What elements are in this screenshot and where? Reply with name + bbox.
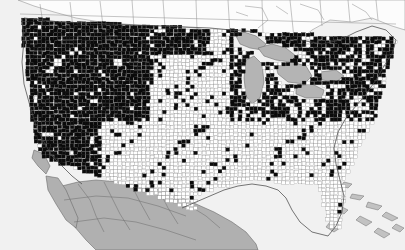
county — [182, 173, 186, 176]
county — [354, 133, 358, 136]
county — [134, 84, 138, 87]
county — [242, 110, 246, 113]
county — [94, 85, 98, 88]
county — [242, 170, 246, 173]
county — [326, 107, 330, 110]
county — [274, 77, 278, 80]
county — [262, 99, 266, 102]
county — [126, 184, 130, 187]
county — [130, 174, 134, 177]
county — [190, 173, 194, 176]
county — [374, 47, 378, 50]
county — [182, 29, 186, 32]
county — [166, 85, 170, 88]
county — [142, 29, 146, 32]
county — [106, 70, 110, 73]
county — [266, 125, 270, 128]
county — [62, 44, 66, 47]
county — [298, 166, 302, 169]
county — [110, 55, 114, 58]
county — [186, 166, 190, 169]
county — [322, 51, 326, 54]
county — [66, 140, 70, 143]
county — [70, 29, 74, 32]
county — [154, 107, 158, 110]
county — [346, 95, 350, 98]
county — [366, 51, 370, 54]
county — [270, 77, 274, 80]
county — [258, 177, 262, 180]
county — [206, 59, 210, 62]
county — [186, 114, 190, 117]
county — [386, 66, 390, 69]
county — [318, 55, 322, 58]
county — [346, 129, 350, 132]
county — [106, 66, 110, 69]
county — [246, 151, 250, 154]
county — [286, 118, 290, 121]
county — [322, 37, 326, 40]
county — [154, 166, 158, 169]
county — [170, 184, 174, 187]
county — [162, 158, 166, 161]
county — [54, 129, 58, 132]
county — [90, 58, 94, 61]
county — [210, 81, 214, 84]
county — [42, 148, 46, 151]
county — [326, 111, 330, 114]
county — [306, 107, 310, 110]
county — [294, 62, 298, 65]
county — [258, 166, 262, 169]
county — [378, 77, 382, 80]
county — [210, 62, 214, 65]
county — [126, 163, 130, 166]
county — [117, 52, 121, 55]
county — [26, 70, 30, 73]
county — [86, 88, 90, 91]
county — [62, 144, 66, 147]
county — [242, 67, 246, 70]
county — [290, 43, 294, 46]
county — [178, 185, 182, 188]
county — [62, 84, 66, 87]
county — [274, 143, 278, 146]
county — [238, 173, 242, 176]
county — [286, 140, 290, 143]
county — [322, 199, 326, 202]
county — [26, 73, 30, 76]
county — [50, 132, 54, 135]
county — [226, 184, 230, 187]
county — [74, 55, 78, 58]
county — [94, 25, 98, 28]
county — [151, 114, 155, 117]
county — [42, 111, 46, 114]
county — [162, 73, 166, 76]
county — [270, 111, 274, 114]
county — [338, 122, 342, 125]
county — [170, 140, 174, 143]
county — [218, 84, 222, 87]
county — [66, 158, 70, 161]
county — [62, 63, 66, 66]
county — [346, 107, 350, 110]
county — [286, 37, 290, 40]
county — [74, 159, 78, 162]
county — [251, 118, 255, 121]
county — [154, 151, 158, 154]
county — [210, 66, 214, 69]
county — [326, 85, 330, 88]
county — [222, 41, 226, 44]
county — [78, 80, 82, 83]
county — [122, 59, 126, 62]
county — [90, 137, 94, 140]
county — [82, 166, 86, 169]
county — [82, 148, 86, 151]
county — [238, 118, 242, 121]
county — [178, 92, 182, 95]
county — [134, 89, 138, 92]
county — [102, 51, 106, 54]
county — [78, 63, 82, 66]
county — [166, 169, 170, 172]
county — [34, 132, 38, 135]
county — [90, 88, 94, 91]
